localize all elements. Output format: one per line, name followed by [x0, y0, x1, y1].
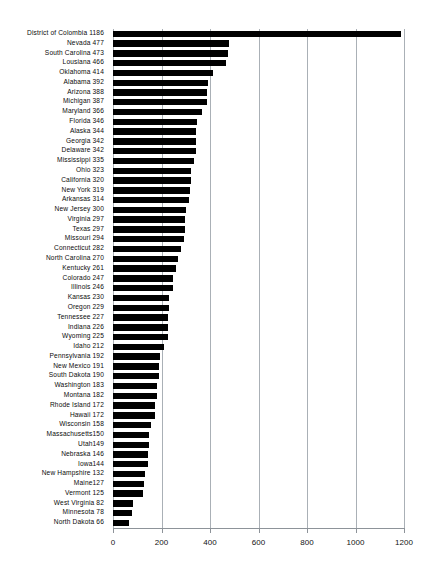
bar: [113, 314, 168, 320]
bar: [113, 363, 159, 369]
bar-label: Florida 346: [0, 116, 104, 126]
bar-label: Oklahoma 414: [0, 67, 104, 77]
bar: [113, 520, 129, 526]
bar-label: Indiana 226: [0, 322, 104, 332]
bar: [113, 138, 196, 144]
bar: [113, 383, 157, 389]
bar: [113, 275, 173, 281]
tick-mark-1200: [404, 528, 405, 533]
bar: [113, 344, 164, 350]
tick-mark-600: [259, 528, 260, 533]
bar-row: North Dakota 66: [0, 518, 426, 528]
bar-label: California 320: [0, 175, 104, 185]
bar: [113, 256, 178, 262]
tick-mark-0: [113, 528, 114, 533]
tick-label-1000: 1000: [347, 537, 365, 548]
bar-label: Ohio 323: [0, 165, 104, 175]
bar: [113, 265, 176, 271]
tick-label-200: 200: [155, 537, 168, 548]
bar-label: Arkansas 314: [0, 194, 104, 204]
bar: [113, 197, 189, 203]
bar: [113, 216, 185, 222]
bar-label: Alaska 344: [0, 126, 104, 136]
tick-mark-800: [307, 528, 308, 533]
bar: [113, 40, 229, 46]
bar-label: South Carolina 473: [0, 48, 104, 58]
bar-label: New York 319: [0, 185, 104, 195]
bar: [113, 451, 148, 457]
bar: [113, 119, 197, 125]
tick-label-1200: 1200: [395, 537, 413, 548]
bar-label: Idaho 212: [0, 341, 104, 351]
bar: [113, 70, 213, 76]
bar-label: Wyoming 225: [0, 331, 104, 341]
tick-mark-200: [162, 528, 163, 533]
bar-label: Maryland 366: [0, 106, 104, 116]
bar: [113, 324, 168, 330]
bar: [113, 177, 191, 183]
bar-label: Washington 183: [0, 380, 104, 390]
bar-label: South Dakota 190: [0, 370, 104, 380]
bar: [113, 422, 151, 428]
bar-label: New Mexico 191: [0, 361, 104, 371]
bar: [113, 236, 184, 242]
bar: [113, 393, 157, 399]
bar: [113, 99, 207, 105]
bar-label: Nevada 477: [0, 38, 104, 48]
bar-label: Illinois 246: [0, 282, 104, 292]
bar: [113, 31, 401, 37]
bar: [113, 50, 228, 56]
bar: [113, 148, 196, 154]
bar-label: Virginia 297: [0, 214, 104, 224]
bar-label: District of Colombia 1186: [0, 28, 104, 38]
bar: [113, 187, 190, 193]
bar-label: Alabama 392: [0, 77, 104, 87]
bar-label: Kentucky 261: [0, 263, 104, 273]
bar-label: Maine127: [0, 478, 104, 488]
bar: [113, 246, 181, 252]
tick-label-0: 0: [111, 537, 115, 548]
bar: [113, 89, 207, 95]
bar-label: Minnesota 78: [0, 507, 104, 517]
bar-label: Pennsylvania 192: [0, 351, 104, 361]
tick-label-400: 400: [203, 537, 216, 548]
bar: [113, 226, 185, 232]
bar-label: Tennessee 227: [0, 312, 104, 322]
bar: [113, 334, 168, 340]
bar-label: Texas 297: [0, 224, 104, 234]
bar: [113, 490, 143, 496]
bar-label: Connecticut 282: [0, 243, 104, 253]
bar-rows: District of Colombia 1186Nevada 477South…: [0, 29, 426, 528]
bar-label: Mississippi 335: [0, 155, 104, 165]
tick-mark-400: [210, 528, 211, 533]
bar-label: Massachusetts150: [0, 429, 104, 439]
bar: [113, 295, 169, 301]
tick-label-600: 600: [252, 537, 265, 548]
bar: [113, 442, 149, 448]
bar: [113, 500, 133, 506]
bar: [113, 510, 132, 516]
bar-label: Michigan 387: [0, 96, 104, 106]
bar: [113, 461, 148, 467]
bar-label: Hawaii 172: [0, 410, 104, 420]
tick-mark-1000: [356, 528, 357, 533]
bar: [113, 207, 186, 213]
bar-label: Nebraska 146: [0, 449, 104, 459]
bar: [113, 353, 160, 359]
bar: [113, 412, 155, 418]
bar-label: Georgia 342: [0, 136, 104, 146]
bar-label: North Carolina 270: [0, 253, 104, 263]
bar: [113, 373, 159, 379]
bar-label: North Dakota 66: [0, 517, 104, 527]
bar-label: Missouri 294: [0, 233, 104, 243]
bar: [113, 402, 155, 408]
bar-label: Wisconsin 158: [0, 419, 104, 429]
bar: [113, 128, 196, 134]
bar-label: Vermont 125: [0, 488, 104, 498]
tick-label-800: 800: [300, 537, 313, 548]
bar-label: Arizona 388: [0, 87, 104, 97]
bar-label: Montana 182: [0, 390, 104, 400]
bar: [113, 60, 226, 66]
bar-label: Lousiana 466: [0, 57, 104, 67]
bar-label: Oregon 229: [0, 302, 104, 312]
